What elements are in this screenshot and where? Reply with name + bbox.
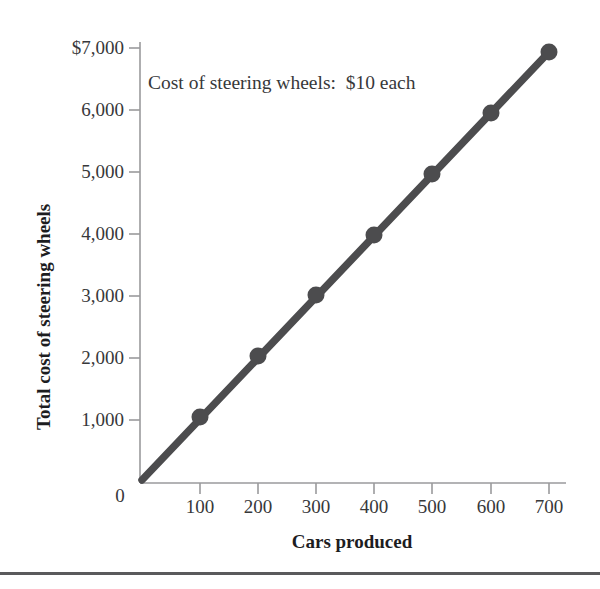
y-tick-label-6000: 6,000 (38, 99, 124, 121)
chart-figure: $7,000 6,000 5,000 4,000 3,000 2,000 1,0… (0, 0, 600, 589)
bottom-divider (0, 572, 600, 575)
data-point (192, 409, 209, 426)
y-tick-label-7000: $7,000 (38, 37, 124, 59)
x-tick-label-600: 600 (477, 496, 506, 518)
x-tick-label-200: 200 (244, 496, 273, 518)
data-point (424, 166, 441, 183)
x-tick-label-500: 500 (418, 496, 447, 518)
origin-label: 0 (115, 485, 125, 507)
y-tick-label-5000: 5,000 (38, 161, 124, 183)
x-tick-label-300: 300 (302, 496, 331, 518)
data-point (250, 348, 267, 365)
data-point (483, 105, 500, 122)
x-tick-label-100: 100 (186, 496, 215, 518)
x-axis-title: Cars produced (292, 531, 413, 553)
x-tick-label-400: 400 (360, 496, 389, 518)
y-axis-title: Total cost of steering wheels (33, 204, 55, 430)
x-tick-marks (200, 483, 549, 494)
x-tick-label-700: 700 (535, 496, 564, 518)
data-point (308, 287, 325, 304)
data-point (541, 44, 558, 61)
data-point (366, 227, 383, 244)
y-tick-marks (129, 48, 140, 420)
cost-note-annotation: Cost of steering wheels: $10 each (148, 72, 416, 94)
